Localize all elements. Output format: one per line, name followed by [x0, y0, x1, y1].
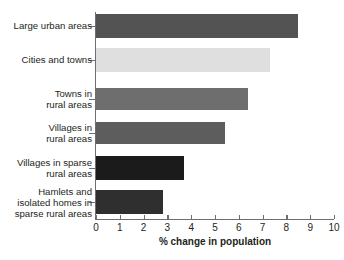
y-axis-line: [95, 12, 96, 220]
x-axis-tick-label: 4: [179, 222, 203, 233]
bar-large-urban-areas: [96, 14, 298, 38]
x-axis-tick-label: 1: [108, 222, 132, 233]
category-label-towns-in-rural-areas: Towns in rural areas: [46, 88, 92, 110]
bar-cities-and-towns: [96, 48, 270, 72]
x-axis-tick-label: 7: [251, 222, 275, 233]
x-axis-tick-label: 0: [84, 222, 108, 233]
x-axis-tick: [144, 215, 145, 219]
category-label-large-urban-areas: Large urban areas: [14, 20, 92, 31]
category-label-villages-in-rural-areas: Villages in rural areas: [46, 122, 92, 144]
x-axis-tick-label: 2: [132, 222, 156, 233]
bar-villages-in-sparse-rural-areas: [96, 156, 184, 180]
x-axis-tick: [334, 215, 335, 219]
x-axis-tick-label: 3: [155, 222, 179, 233]
x-axis-tick: [263, 215, 264, 219]
bar-towns-in-rural-areas: [96, 88, 248, 110]
plot-area: Large urban areas Cities and towns Towns…: [0, 0, 344, 260]
x-axis-tick: [239, 215, 240, 219]
x-axis-tick: [120, 215, 121, 219]
x-axis-tick-label: 6: [227, 222, 251, 233]
x-axis-title: % change in population: [96, 236, 334, 247]
x-axis-tick-label: 8: [274, 222, 298, 233]
category-label-cities-and-towns: Cities and towns: [22, 54, 92, 65]
bar-villages-in-rural-areas: [96, 122, 225, 144]
x-axis-line: [95, 219, 334, 220]
x-axis-tick: [215, 215, 216, 219]
bar-chart: Large urban areas Cities and towns Towns…: [0, 0, 344, 260]
x-axis-tick-label: 5: [203, 222, 227, 233]
x-axis-tick: [286, 215, 287, 219]
x-axis-tick: [167, 215, 168, 219]
bar-hamlets-and-isolated-homes: [96, 190, 163, 214]
category-label-hamlets-and-isolated-homes: Hamlets and isolated homes in sparse rur…: [15, 186, 92, 220]
x-axis-tick-label: 10: [322, 222, 344, 233]
x-axis-tick: [310, 215, 311, 219]
category-label-villages-in-sparse-rural-areas: Villages in sparse rural areas: [17, 157, 92, 179]
x-axis-tick-label: 9: [298, 222, 322, 233]
x-axis-tick: [191, 215, 192, 219]
x-axis-tick: [96, 215, 97, 219]
